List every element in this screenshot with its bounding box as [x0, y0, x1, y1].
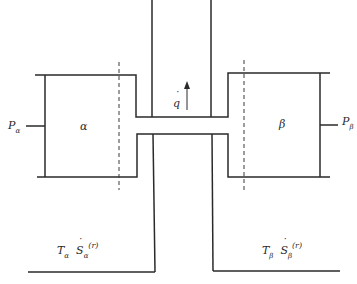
alpha-label: α	[80, 121, 87, 132]
entropy-superscript: (r)	[88, 241, 98, 250]
right-reservoir-wall-lower	[212, 134, 213, 271]
entropy-dot-symbol: S	[280, 245, 288, 256]
alpha-pressure-label: Pα	[8, 120, 20, 131]
heat-flow-label: q	[173, 98, 180, 109]
arrow-up-icon	[184, 81, 190, 89]
pressure-subscript: β	[349, 123, 353, 131]
entropy-subscript: β	[288, 252, 292, 260]
pressure-subscript: α	[15, 127, 20, 135]
left-reservoir-wall-lower	[153, 134, 155, 272]
entropy-superscript: (r)	[292, 241, 302, 250]
beta-pressure-label: Pβ	[342, 116, 353, 127]
q-dot-symbol: q	[173, 98, 180, 109]
alpha-container-bottom-outline	[37, 134, 330, 177]
temperature-subscript: β	[269, 252, 273, 260]
beta-reservoir-label: Tβ Sβ(r)	[262, 245, 302, 256]
entropy-subscript: α	[84, 252, 89, 260]
alpha-container-outline	[35, 73, 330, 117]
alpha-reservoir-label: Tα Sα(r)	[57, 245, 98, 256]
entropy-dot-symbol: S	[76, 245, 84, 256]
beta-label: β	[279, 119, 285, 130]
temperature-subscript: α	[64, 252, 69, 260]
diagram-canvas	[0, 0, 357, 284]
